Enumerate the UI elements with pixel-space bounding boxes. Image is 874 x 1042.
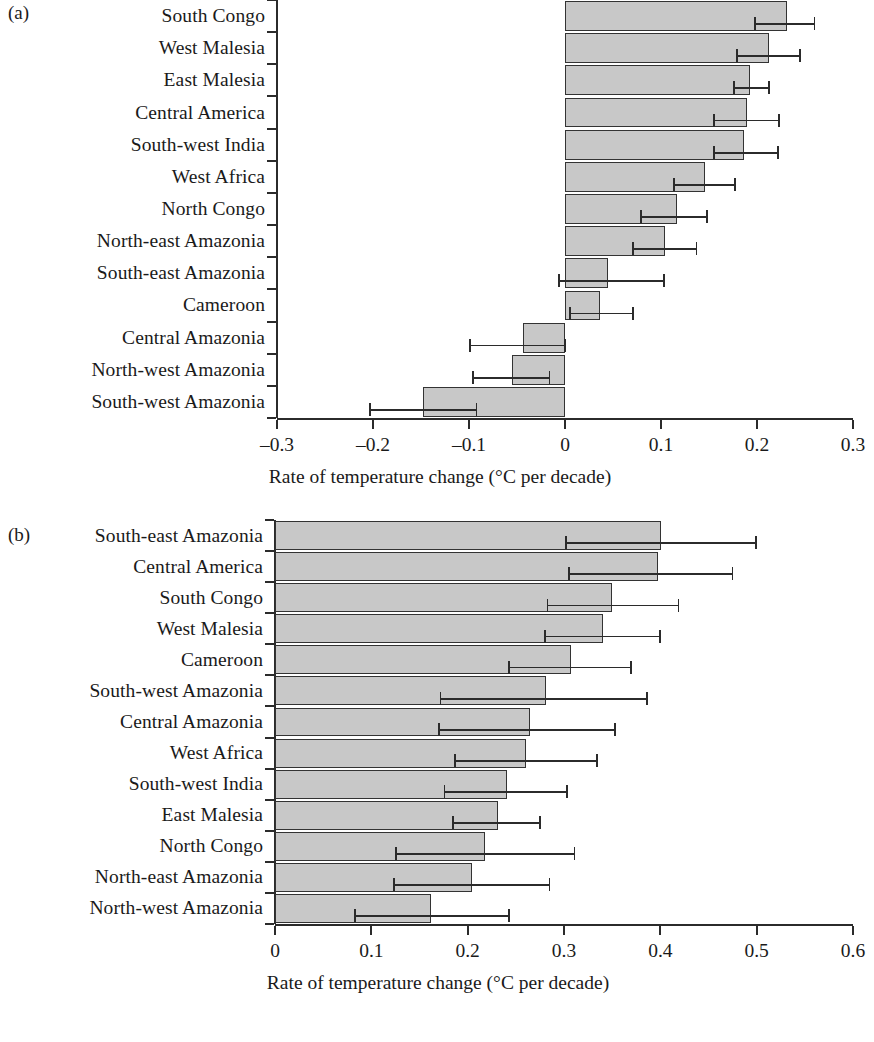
error-bar-cap xyxy=(354,909,356,922)
x-axis-tick-label: 0.1 xyxy=(359,940,383,962)
error-bar-cap xyxy=(632,242,634,255)
bar xyxy=(275,676,546,705)
error-bar-cap xyxy=(778,114,780,127)
bar xyxy=(275,521,661,550)
error-bar-cap xyxy=(732,567,734,580)
x-axis-tick xyxy=(756,420,758,429)
x-axis-tick-label: 0.2 xyxy=(745,434,769,456)
error-bar-line xyxy=(548,605,679,607)
error-bar-cap xyxy=(549,371,551,384)
error-bar-cap xyxy=(508,909,510,922)
y-axis-tick xyxy=(265,612,274,614)
panel-a-plot-area: –0.3–0.2–0.100.10.20.3 xyxy=(0,0,874,498)
y-axis-tick xyxy=(267,224,276,226)
y-axis-tick xyxy=(267,63,276,65)
x-axis-tick xyxy=(467,926,469,935)
error-bar-line xyxy=(545,636,661,638)
error-bar-cap xyxy=(565,536,567,549)
bar xyxy=(565,226,665,256)
error-bar-cap xyxy=(768,81,770,94)
error-bar-cap xyxy=(539,816,541,829)
error-bar-cap xyxy=(544,630,546,643)
bar xyxy=(275,645,571,674)
error-bar-cap xyxy=(663,274,665,287)
x-axis-tick-label: –0.2 xyxy=(356,434,390,456)
y-axis-tick xyxy=(265,737,274,739)
error-bar-cap xyxy=(706,210,708,223)
error-bar-cap xyxy=(438,723,440,736)
bar xyxy=(565,33,769,63)
y-axis-tick xyxy=(267,31,276,33)
y-axis-tick xyxy=(265,581,274,583)
error-bar-line xyxy=(396,853,574,855)
error-bar-line xyxy=(453,822,540,824)
error-bar-cap xyxy=(632,307,634,320)
error-bar-line xyxy=(445,791,567,793)
error-bar-line xyxy=(470,345,565,347)
error-bar-cap xyxy=(568,567,570,580)
error-bar-cap xyxy=(673,178,675,191)
error-bar-cap xyxy=(640,210,642,223)
y-axis-tick xyxy=(265,519,274,521)
x-axis-tick xyxy=(370,926,372,935)
bar xyxy=(565,130,744,160)
x-axis-tick-label: 0.5 xyxy=(744,940,768,962)
y-axis-tick xyxy=(265,705,274,707)
error-bar-cap xyxy=(549,878,551,891)
y-axis-tick xyxy=(265,674,274,676)
error-bar-line xyxy=(370,409,477,411)
x-axis-tick xyxy=(274,926,276,935)
bar xyxy=(275,739,526,768)
error-bar-line xyxy=(455,760,597,762)
error-bar-cap xyxy=(393,878,395,891)
y-axis-tick xyxy=(267,256,276,258)
error-bar-cap xyxy=(678,599,680,612)
x-axis-tick xyxy=(660,420,662,429)
error-bar-cap xyxy=(734,178,736,191)
error-bar-line xyxy=(559,280,664,282)
x-axis-tick-label: 0 xyxy=(560,434,570,456)
x-axis-tick-label: 0.4 xyxy=(648,940,672,962)
error-bar-cap xyxy=(646,692,648,705)
x-axis-tick-label: 0.3 xyxy=(841,434,865,456)
error-bar-cap xyxy=(440,692,442,705)
y-axis-tick xyxy=(267,0,276,1)
bar xyxy=(423,387,565,417)
error-bar-line xyxy=(473,377,550,379)
error-bar-line xyxy=(439,729,615,731)
x-axis-tick-label: 0 xyxy=(270,940,280,962)
y-axis-tick xyxy=(265,768,274,770)
y-axis-tick xyxy=(267,128,276,130)
error-bar-cap xyxy=(696,242,698,255)
error-bar-cap xyxy=(472,371,474,384)
error-bar-cap xyxy=(754,17,756,30)
y-axis-tick xyxy=(267,160,276,162)
x-axis-tick xyxy=(276,420,278,429)
x-axis-tick xyxy=(756,926,758,935)
figure-page: (a) South CongoWest MalesiaEast MalesiaC… xyxy=(0,0,874,1042)
x-axis-tick xyxy=(563,926,565,935)
bar xyxy=(275,583,612,612)
x-axis-tick xyxy=(468,420,470,429)
error-bar-line xyxy=(355,915,509,917)
y-axis-tick xyxy=(265,830,274,832)
y-axis-tick xyxy=(265,550,274,552)
bar xyxy=(565,258,608,288)
panel-b-plot-area: 00.10.20.30.40.50.6 xyxy=(0,520,874,1004)
bar xyxy=(275,801,498,830)
error-bar-line xyxy=(441,698,647,700)
x-axis-tick xyxy=(852,926,854,935)
y-axis-tick xyxy=(265,923,274,925)
x-axis-tick-label: 0.6 xyxy=(841,940,865,962)
bar xyxy=(512,355,565,385)
error-bar-cap xyxy=(659,630,661,643)
error-bar-cap xyxy=(444,785,446,798)
error-bar-cap xyxy=(564,339,566,352)
x-axis-tick xyxy=(659,926,661,935)
error-bar-cap xyxy=(713,146,715,159)
x-axis-tick xyxy=(564,420,566,429)
x-axis-tick xyxy=(852,420,854,429)
error-bar-cap xyxy=(395,847,397,860)
error-bar-cap xyxy=(476,403,478,416)
y-axis-tick xyxy=(267,353,276,355)
